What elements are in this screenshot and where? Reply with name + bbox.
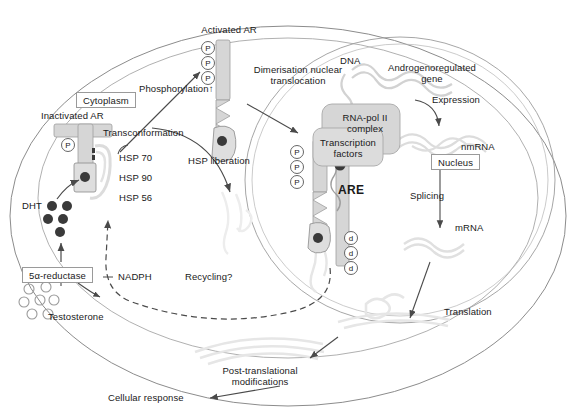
post-translational-label-line2: modifications: [205, 376, 315, 387]
hsp70-label: HSP 70: [119, 152, 152, 163]
dht-molecules: [43, 201, 72, 237]
svg-text:P: P: [294, 163, 299, 172]
svg-text:d: d: [349, 264, 353, 273]
bound-dht-ligand: [80, 172, 90, 182]
rna-pol-label-line1: RNA-pol II: [336, 112, 394, 123]
svg-text:P: P: [294, 178, 299, 187]
dimerisation-label-line1: Dimerisation nuclear: [240, 64, 356, 75]
post-translational-label-line1: Post-translational: [205, 365, 315, 376]
activated-ar-phosphates: P P P: [202, 42, 215, 85]
cellular-response-label: Cellular response: [108, 392, 184, 403]
splicing-label: Splicing: [410, 190, 444, 201]
testosterone-label: Testosterone: [48, 311, 104, 322]
mrna-label: mRNA: [455, 222, 483, 233]
translation-arrow: [410, 262, 430, 318]
svg-text:d: d: [349, 249, 353, 258]
cytoplasm-label: Cytoplasm: [76, 94, 136, 105]
pathway-diagram: P P P P: [0, 0, 571, 418]
reductase-label-text: 5α-reductase: [22, 267, 93, 283]
dimerisation-label-line2: translocation: [240, 75, 356, 86]
nucleus-label: Nucleus: [431, 156, 480, 167]
transcription-factors-label-line1: Transcription: [317, 137, 379, 148]
nucleus-label-text: Nucleus: [431, 154, 480, 170]
inactivated-ar-label: Inactivated AR: [41, 110, 104, 121]
dimer-marks: d d d: [345, 232, 358, 275]
hsp90-label: HSP 90: [119, 172, 152, 183]
phosphorylation-label: Phosphorylation↑: [139, 83, 214, 94]
svg-text:P: P: [294, 148, 299, 157]
nuclear-ar-phosphates: P P P: [291, 146, 304, 189]
svg-text:P: P: [205, 44, 210, 53]
nuclear-ar-bound-ligand-lower: [313, 233, 323, 243]
androgen-gene-label-line1: Androgenoregulated: [372, 62, 492, 73]
phosphorylation-text: Phosphorylation: [139, 83, 209, 94]
cellular-response-arrow: [210, 386, 280, 398]
activated-ar-label: Activated AR: [192, 24, 266, 35]
transconformation-label: Transconformation: [103, 127, 184, 138]
activated-ar-bound-ligand: [217, 136, 227, 146]
transcription-factors-label-line2: factors: [317, 148, 379, 159]
nadph-label: NADPH: [118, 271, 152, 282]
dht-label: DHT: [22, 200, 42, 211]
translation-label: Translation: [444, 306, 492, 317]
androgen-gene-label-line2: gene: [372, 73, 492, 84]
reductase-label: 5α-reductase: [22, 269, 93, 280]
rna-pol-label-line2: complex: [336, 123, 394, 134]
nuclear-translocation-arrow: [247, 104, 298, 133]
post-translational-arrow: [310, 337, 338, 358]
recycling-label: Recycling?: [185, 271, 232, 282]
are-label: ARE: [338, 185, 364, 196]
recycling-dashed-arrow: [106, 220, 330, 319]
expression-label: Expression: [432, 94, 480, 105]
hsp56-label: HSP 56: [119, 192, 152, 203]
svg-text:d: d: [349, 234, 353, 243]
mrna-strand: [404, 238, 464, 257]
nmrna-label: nmRNA: [461, 141, 495, 152]
dna-label: DNA: [340, 55, 360, 66]
svg-text:P: P: [205, 59, 210, 68]
hsp-liberation-label: HSP liberation: [188, 155, 250, 166]
activated-ar-receptor: [212, 40, 236, 161]
cytoplasm-label-text: Cytoplasm: [76, 92, 136, 108]
svg-text:P: P: [65, 141, 70, 150]
phosphorylation-up-arrow: ↑: [209, 83, 214, 94]
